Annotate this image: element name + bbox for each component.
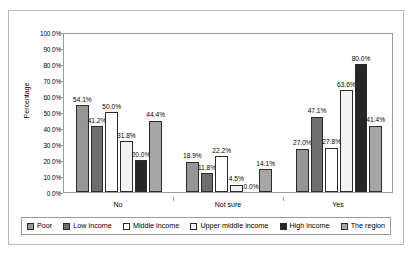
legend-label: Poor bbox=[37, 222, 52, 230]
bar-slot: 14.1% bbox=[258, 34, 273, 192]
legend-swatch-icon bbox=[190, 223, 197, 230]
legend-item[interactable]: Upper middle income bbox=[190, 222, 268, 230]
legend-item[interactable]: Low income bbox=[63, 222, 111, 230]
y-axis-tick-mark bbox=[59, 33, 63, 34]
bar-value-label: 4.5% bbox=[229, 175, 244, 183]
bar-slot: 41.2% bbox=[90, 34, 105, 192]
y-axis-tick-mark bbox=[59, 177, 63, 178]
bar-value-label: 0.0% bbox=[244, 183, 259, 191]
bar[interactable] bbox=[230, 185, 243, 192]
bar-value-label: 44.4% bbox=[146, 111, 165, 119]
bar-group-bars: 18.9%11.8%22.2%4.5%0.0%14.1% bbox=[174, 34, 284, 192]
y-axis-tick-mark bbox=[59, 161, 63, 162]
bar[interactable] bbox=[201, 173, 214, 192]
bar-slot: 41.4% bbox=[368, 34, 383, 192]
bar[interactable] bbox=[311, 117, 324, 192]
y-axis-tick-label: 0.0% bbox=[25, 190, 61, 197]
y-axis-tick-label: 40.0% bbox=[25, 126, 61, 133]
plot-area: 54.1%41.2%50.0%31.8%20.0%44.4%18.9%11.8%… bbox=[63, 33, 393, 193]
legend-item[interactable]: Middle income bbox=[123, 222, 179, 230]
bar-value-label: 41.4% bbox=[366, 116, 385, 124]
legend-label: Upper middle income bbox=[200, 222, 268, 230]
y-axis-tick-label: 30.0% bbox=[25, 142, 61, 149]
bar[interactable] bbox=[369, 126, 382, 192]
y-axis-tick-mark bbox=[59, 145, 63, 146]
bar-slot: 22.2% bbox=[214, 34, 229, 192]
legend-swatch-icon bbox=[280, 223, 287, 230]
legend-swatch-icon bbox=[63, 223, 70, 230]
bar-slot: 47.1% bbox=[310, 34, 325, 192]
bar-slot: 50.0% bbox=[104, 34, 119, 192]
y-axis-tick-label: 90.0% bbox=[25, 46, 61, 53]
bar[interactable] bbox=[259, 169, 272, 192]
bar-group: 18.9%11.8%22.2%4.5%0.0%14.1% bbox=[174, 34, 284, 192]
y-axis-tick-label: 10.0% bbox=[25, 174, 61, 181]
y-axis-tick-label: 60.0% bbox=[25, 94, 61, 101]
y-axis-tick-mark bbox=[59, 81, 63, 82]
legend-item[interactable]: The region bbox=[341, 222, 385, 230]
bar[interactable] bbox=[120, 141, 133, 192]
bar-slot: 44.4% bbox=[148, 34, 163, 192]
x-axis-tick-labels: NoNot sureYes bbox=[63, 197, 393, 211]
bar-slot: 54.1% bbox=[75, 34, 90, 192]
legend-label: High income bbox=[290, 222, 330, 230]
bar[interactable] bbox=[325, 148, 338, 192]
bar[interactable] bbox=[149, 121, 162, 192]
legend-label: Low income bbox=[73, 222, 111, 230]
bar[interactable] bbox=[355, 64, 368, 192]
x-axis-tick-label: Yes bbox=[283, 201, 393, 208]
x-axis-tick-label: Not sure bbox=[173, 201, 283, 208]
y-axis-tick-mark bbox=[59, 193, 63, 194]
y-axis-tick-labels: 0.0%10.0%20.0%30.0%40.0%50.0%60.0%70.0%8… bbox=[25, 27, 61, 199]
bar[interactable] bbox=[296, 149, 309, 192]
chart-frame: Percentage 0.0%10.0%20.0%30.0%40.0%50.0%… bbox=[8, 10, 404, 245]
bar-slot: 31.8% bbox=[119, 34, 134, 192]
legend-swatch-icon bbox=[123, 223, 130, 230]
bar[interactable] bbox=[215, 156, 228, 192]
y-axis-tick-mark bbox=[59, 49, 63, 50]
x-axis-tick-label: No bbox=[63, 201, 173, 208]
bar-slot: 0.0% bbox=[244, 34, 259, 192]
legend-item[interactable]: High income bbox=[280, 222, 330, 230]
y-axis-tick-label: 100.0% bbox=[25, 30, 61, 37]
y-axis-tick-mark bbox=[59, 97, 63, 98]
x-axis-separator bbox=[173, 197, 174, 201]
bar-slot: 11.8% bbox=[200, 34, 215, 192]
y-axis-tick-mark bbox=[59, 113, 63, 114]
y-axis-tick-label: 20.0% bbox=[25, 158, 61, 165]
legend-label: The region bbox=[351, 222, 385, 230]
bar[interactable] bbox=[105, 112, 118, 192]
y-axis-tick-mark bbox=[59, 129, 63, 130]
chart-legend: PoorLow incomeMiddle incomeUpper middle … bbox=[21, 217, 391, 235]
bar-group-bars: 27.0%47.1%27.8%63.6%80.0%41.4% bbox=[284, 34, 394, 192]
bar[interactable] bbox=[91, 126, 104, 192]
bar[interactable] bbox=[340, 90, 353, 192]
bar-slot: 80.0% bbox=[354, 34, 369, 192]
y-axis-tick-mark bbox=[59, 65, 63, 66]
bar-group-bars: 54.1%41.2%50.0%31.8%20.0%44.4% bbox=[64, 34, 174, 192]
legend-label: Middle income bbox=[133, 222, 179, 230]
bar-slot: 4.5% bbox=[229, 34, 244, 192]
bar-group: 54.1%41.2%50.0%31.8%20.0%44.4% bbox=[64, 34, 174, 192]
x-axis-separator bbox=[283, 197, 284, 201]
legend-swatch-icon bbox=[27, 223, 34, 230]
y-axis-tick-label: 80.0% bbox=[25, 62, 61, 69]
bar-slot: 27.8% bbox=[324, 34, 339, 192]
y-axis-tick-label: 70.0% bbox=[25, 78, 61, 85]
y-axis-tick-label: 50.0% bbox=[25, 110, 61, 117]
bar-value-label: 14.1% bbox=[256, 160, 275, 168]
bar-group: 27.0%47.1%27.8%63.6%80.0%41.4% bbox=[284, 34, 394, 192]
bar[interactable] bbox=[135, 160, 148, 192]
legend-item[interactable]: Poor bbox=[27, 222, 52, 230]
bar[interactable] bbox=[186, 162, 199, 192]
legend-swatch-icon bbox=[341, 223, 348, 230]
